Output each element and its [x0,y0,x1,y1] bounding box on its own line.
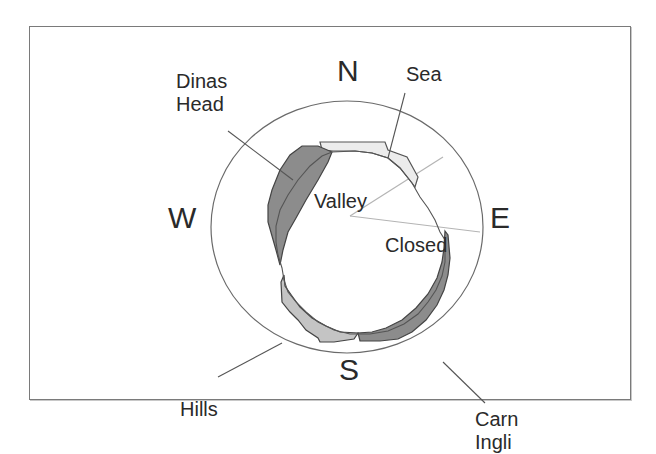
sea-region-shape [320,142,418,187]
carn-ingli-label: Carn Ingli [475,408,518,454]
dinas-head-leader-line [228,131,293,180]
valley-label: Valley [314,190,367,213]
sea-label: Sea [406,63,442,86]
hills-leader-line [218,343,282,377]
sea-leader-line [388,93,405,158]
compass-east-label: E [490,203,510,233]
closed-sector-ray-e [350,216,480,232]
hills-label: Hills [180,398,218,421]
compass-south-label: S [339,355,359,385]
closed-label: Closed [385,234,447,257]
hills-region-shape [281,275,358,342]
dinas-head-label: Dinas Head [176,70,227,116]
compass-west-label: W [168,203,196,233]
compass-north-label: N [337,56,359,86]
carn-ingli-leader-line [443,362,485,403]
